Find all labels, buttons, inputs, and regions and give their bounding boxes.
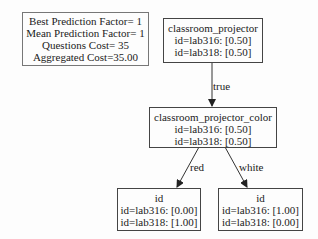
summary-info-box: Best Prediction Factor= 1 Mean Predictio…: [22, 12, 149, 66]
decision-tree-diagram: Best Prediction Factor= 1 Mean Predictio…: [0, 0, 318, 239]
node-title: id: [118, 192, 200, 204]
edge-label-white: white: [239, 161, 263, 173]
node-title: classroom_projector_color: [150, 111, 276, 123]
node-value: id=lab318: [0.50]: [150, 135, 276, 147]
node-title: id: [219, 192, 302, 204]
best-prediction-factor: Best Prediction Factor= 1: [23, 15, 148, 27]
node-value: id=lab316: [0.00]: [118, 204, 200, 216]
edge-label-red: red: [190, 161, 204, 173]
questions-cost: Questions Cost= 35: [23, 39, 148, 51]
node-value: id=lab318: [1.00]: [118, 216, 200, 228]
node-value: id=lab318: [0.00]: [219, 216, 302, 228]
edge-label-true: true: [213, 80, 230, 92]
mean-prediction-factor: Mean Prediction Factor= 1: [23, 27, 148, 39]
aggregated-cost: Aggregated Cost=35.00: [23, 51, 148, 63]
node-classroom-projector: classroom_projector id=lab316: [0.50] id…: [163, 18, 263, 63]
node-title: classroom_projector: [164, 22, 262, 34]
node-classroom-projector-color: classroom_projector_color id=lab316: [0.…: [149, 107, 277, 148]
node-id-white: id id=lab316: [1.00] id=lab318: [0.00]: [218, 188, 303, 231]
node-value: id=lab316: [0.50]: [164, 34, 262, 46]
node-value: id=lab316: [0.50]: [150, 123, 276, 135]
node-value: id=lab316: [1.00]: [219, 204, 302, 216]
node-value: id=lab318: [0.50]: [164, 46, 262, 58]
node-id-red: id id=lab316: [0.00] id=lab318: [1.00]: [117, 188, 201, 231]
